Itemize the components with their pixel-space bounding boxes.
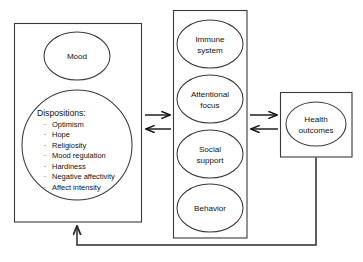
- social-support-node-label-line1: Social: [199, 145, 221, 154]
- list-bullet: ·: [44, 120, 47, 129]
- health-outcomes-node-label-line1: Health: [304, 115, 327, 124]
- health-outcomes-node-label-line2: outcomes: [298, 126, 333, 135]
- attentional-focus-node[interactable]: Attentional focus: [177, 75, 243, 123]
- behavior-node[interactable]: Behavior: [177, 184, 243, 232]
- health-outcomes-node-shape: [286, 102, 346, 146]
- attentional-focus-node-label-line1: Attentional: [191, 90, 229, 99]
- mood-node[interactable]: Mood: [44, 32, 110, 80]
- list-bullet: ·: [44, 141, 47, 150]
- list-item: Affect intensity: [52, 183, 101, 192]
- list-item: Mood regulation: [52, 151, 106, 160]
- attentional-focus-node-shape: [177, 75, 243, 123]
- health-outcomes-node[interactable]: Health outcomes: [286, 102, 346, 146]
- list-item: Optimism: [52, 120, 84, 129]
- attentional-focus-node-label-line2: focus: [200, 101, 219, 110]
- immune-system-node-label-line1: Immune: [195, 35, 225, 44]
- list-bullet: ·: [44, 151, 47, 160]
- list-bullet: ·: [44, 172, 47, 181]
- mediators-panel[interactable]: Immune system Attentional focus Social s…: [174, 11, 248, 239]
- immune-system-node[interactable]: Immune system: [177, 20, 243, 68]
- mood-node-label: Mood: [67, 52, 87, 61]
- immune-system-node-label-line2: system: [197, 46, 223, 55]
- health-outcomes-panel[interactable]: Health outcomes: [281, 93, 353, 158]
- dispositions-heading: Dispositions:: [37, 108, 86, 118]
- behavior-node-label-line1: Behavior: [194, 204, 226, 213]
- list-item: Negative affectivity: [52, 172, 115, 181]
- list-item: Hope: [52, 130, 70, 139]
- list-item: Hardiness: [52, 162, 86, 171]
- list-bullet: ·: [44, 130, 47, 139]
- list-item: Religiosity: [52, 141, 86, 150]
- list-bullet: ·: [44, 183, 47, 192]
- model-diagram: Mood Dispositions: · Optimism · Hope · R…: [0, 0, 363, 262]
- social-support-node[interactable]: Social support: [177, 130, 243, 178]
- diagram-root: Mood Dispositions: · Optimism · Hope · R…: [0, 0, 363, 262]
- immune-system-node-shape: [177, 20, 243, 68]
- social-support-node-label-line2: support: [197, 156, 225, 165]
- social-support-node-shape: [177, 130, 243, 178]
- dispositions-panel[interactable]: Mood Dispositions: · Optimism · Hope · R…: [15, 24, 142, 223]
- list-bullet: ·: [44, 162, 47, 171]
